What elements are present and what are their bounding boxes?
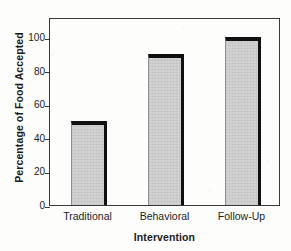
plot-area	[49, 18, 280, 206]
bar-behavioral	[148, 54, 184, 205]
bar-follow-up	[225, 37, 261, 205]
bar-texture	[149, 58, 181, 205]
y-axis-tick-mark	[45, 39, 50, 40]
y-axis-tick-mark	[45, 207, 50, 208]
x-axis-tick-label: Follow-Up	[203, 210, 280, 222]
y-axis-tick-label: 60	[19, 100, 45, 110]
y-axis-tick-mark	[45, 139, 50, 140]
bar-texture	[72, 125, 104, 205]
y-axis-tick-label: 0	[19, 201, 45, 211]
x-axis-title: Intervention	[49, 231, 280, 243]
x-axis-tick-label: Traditional	[49, 210, 126, 222]
bar-traditional	[71, 121, 107, 205]
y-axis-tick-labels: 020406080100	[19, 0, 45, 251]
y-axis-tick-mark	[45, 173, 50, 174]
bar-chart-figure: Percentage of Food Accepted 020406080100…	[0, 0, 291, 251]
y-axis-tick-label: 20	[19, 167, 45, 177]
y-axis-tick-label: 40	[19, 134, 45, 144]
x-axis-tick-label: Behavioral	[126, 210, 203, 222]
y-axis-tick-label: 100	[19, 33, 45, 43]
bar-texture	[226, 41, 258, 205]
y-axis-tick-mark	[45, 106, 50, 107]
y-axis-tick-mark	[45, 72, 50, 73]
y-axis-tick-label: 80	[19, 67, 45, 77]
